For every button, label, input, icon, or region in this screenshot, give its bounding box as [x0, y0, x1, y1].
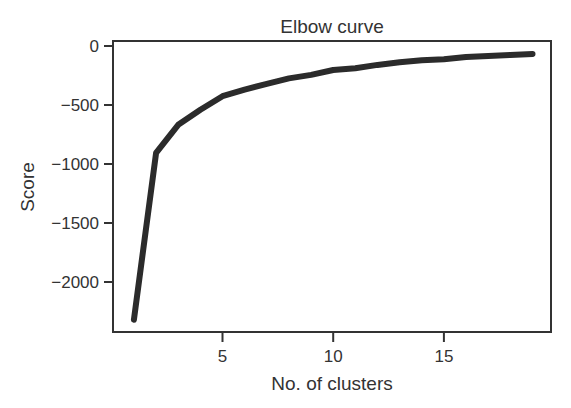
chart-title: Elbow curve — [280, 16, 384, 37]
x-axis-label: No. of clusters — [271, 373, 392, 394]
y-tick-label: −1000 — [51, 155, 99, 174]
y-axis-ticks: 0−500−1000−1500−2000 — [51, 37, 113, 292]
y-tick-label: −500 — [61, 96, 99, 115]
x-tick-label: 15 — [434, 347, 453, 366]
y-tick-label: 0 — [90, 37, 99, 56]
y-axis-label: Score — [17, 162, 38, 212]
y-tick-label: −1500 — [51, 214, 99, 233]
y-tick-label: −2000 — [51, 273, 99, 292]
x-tick-label: 5 — [218, 347, 227, 366]
plot-frame — [113, 41, 551, 332]
plot-border — [113, 41, 551, 332]
elbow-curve-chart: 0−500−1000−1500−2000 51015 Elbow curve N… — [0, 0, 571, 408]
x-axis-ticks: 51015 — [218, 332, 454, 366]
score-line — [134, 54, 533, 320]
x-tick-label: 10 — [324, 347, 343, 366]
